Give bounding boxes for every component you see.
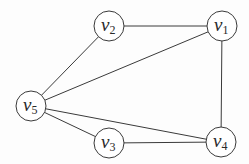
node-v1: v1: [207, 11, 237, 41]
edge-v2-v5: [31, 26, 109, 106]
node-v4: v4: [206, 127, 236, 157]
edge-v1-v5: [31, 26, 222, 106]
node-v5: v5: [16, 91, 46, 121]
graph-svg: v1v2v3v4v5: [0, 0, 249, 164]
edge-v5-v4: [31, 106, 221, 142]
node-v2: v2: [94, 11, 124, 41]
edges-group: [31, 26, 222, 143]
edge-v3-v4: [109, 142, 221, 143]
node-v3: v3: [94, 128, 124, 158]
edge-v1-v4: [221, 26, 222, 142]
graph-diagram: v1v2v3v4v5: [0, 0, 249, 164]
nodes-group: v1v2v3v4v5: [16, 11, 237, 158]
